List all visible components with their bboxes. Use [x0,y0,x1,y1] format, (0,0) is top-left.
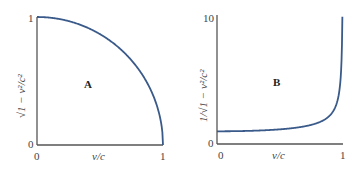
y-label-b: 1/√1 − v²/c² [197,69,209,122]
y-tick-top-a: 1 [28,12,34,24]
x-label-a: v/c [92,150,105,162]
y-tick-bottom-a: 0 [28,138,34,150]
y-tick-bottom-b: 0 [208,137,214,149]
x-tick-left-a: 0 [34,150,40,162]
curve-b [217,17,342,131]
chart-a: 1 0 0 1 v/c √1 − v²/c² A [15,12,166,162]
x-tick-left-b: 0 [218,149,224,161]
panel-label-a: A [84,78,92,90]
y-tick-top-b: 10 [203,12,215,24]
x-tick-right-a: 1 [160,150,166,162]
panel-label-b: B [273,76,281,88]
chart-b: 10 0 0 1 v/c 1/√1 − v²/c² B [197,12,346,161]
x-tick-right-b: 1 [340,149,346,161]
curve-a [37,17,163,145]
x-label-b: v/c [272,149,285,161]
figure: 1 0 0 1 v/c √1 − v²/c² A 10 0 0 1 v/c 1/… [0,0,358,173]
y-label-a: √1 − v²/c² [15,73,27,118]
